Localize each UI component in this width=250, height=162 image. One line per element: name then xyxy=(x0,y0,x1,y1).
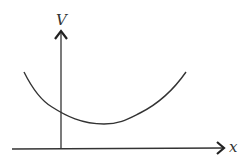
potential-curve xyxy=(24,72,186,124)
potential-diagram: V x xyxy=(0,0,250,162)
y-axis-label: V xyxy=(56,11,69,29)
x-axis xyxy=(12,148,224,149)
x-axis-label: x xyxy=(229,138,238,156)
